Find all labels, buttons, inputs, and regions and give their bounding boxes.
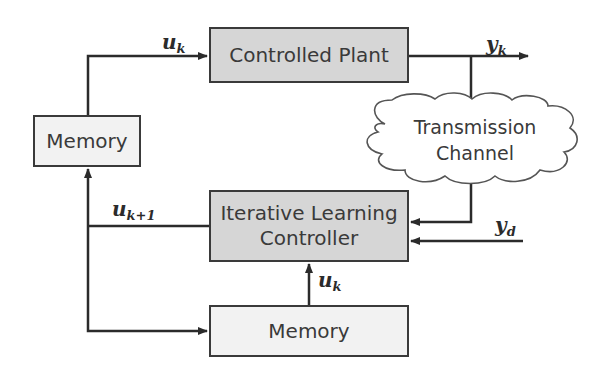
channel-label-line2: Channel (400, 140, 550, 166)
signal-yd: yd (495, 213, 516, 239)
ilc-label-line2: Controller (260, 226, 358, 251)
signal-uk-bottom: uk (318, 268, 342, 294)
memory-top-block: Memory (33, 115, 141, 167)
channel-label-line1: Transmission (400, 114, 550, 140)
ukp1-to-memory-bottom-arrow (88, 226, 207, 331)
signal-uk-plus-1: uk+1 (112, 197, 156, 223)
memory-bottom-label: Memory (268, 319, 349, 344)
controlled-plant-block: Controlled Plant (209, 27, 409, 83)
ilc-label-line1: Iterative Learning (220, 201, 397, 226)
signal-uk-top: uk (162, 30, 186, 56)
uk-to-plant-arrow (88, 56, 207, 115)
controlled-plant-label: Controlled Plant (229, 43, 389, 68)
memory-bottom-block: Memory (209, 305, 409, 357)
signal-yk: yk (486, 32, 507, 58)
channel-label: Transmission Channel (400, 114, 550, 166)
memory-top-label: Memory (46, 129, 127, 154)
iterative-learning-controller-block: Iterative Learning Controller (209, 190, 409, 262)
channel-to-ilc-arrow (411, 178, 471, 222)
